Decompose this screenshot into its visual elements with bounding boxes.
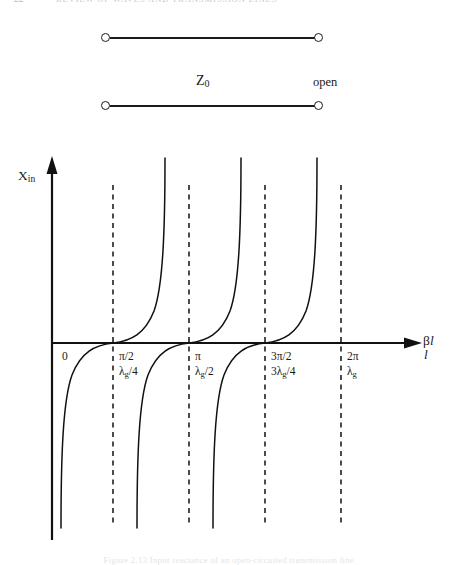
x-tick-lambda-divisor: /4 (287, 365, 296, 377)
x-tick-lambda-subscript: g (353, 369, 357, 379)
x-tick-2pi: 2π λg (347, 349, 359, 380)
x-tick-lambda-divisor: /2 (205, 365, 214, 377)
curve-branch-2 (113, 158, 165, 343)
x-axis-label-ell-top: l (430, 333, 434, 348)
x-tick-wavelength-label: λg (347, 364, 359, 380)
x-axis-label-ell-bottom: l (423, 348, 434, 362)
curve-branch-6 (265, 158, 317, 343)
x-tick-3pi-over-2: 3π/2 3λg/4 (271, 349, 296, 380)
x-tick-pi-over-2: π/2 λg/4 (119, 349, 138, 380)
x-tick-angle-label: π/2 (119, 350, 134, 362)
x-tick-wavelength-label: λg/4 (119, 364, 138, 380)
x-tick-origin: 0 (62, 349, 68, 364)
x-tick-origin-label: 0 (62, 350, 68, 362)
x-tick-pi: π λg/2 (195, 349, 214, 380)
x-tick-angle-label: 3π/2 (271, 350, 292, 362)
figure-caption: Figure 2.13 Input reactance of an open-c… (0, 555, 460, 565)
x-tick-wavelength-label: 3λg/4 (271, 364, 296, 380)
x-axis (52, 338, 422, 349)
curve-branch-1 (61, 343, 113, 528)
curve-branch-3 (137, 343, 189, 528)
x-tick-angle-label: π (195, 350, 201, 362)
y-axis-label: Xin (18, 168, 35, 184)
x-tick-lambda-divisor: /4 (129, 365, 138, 377)
x-tick-lambda: 3λ (271, 365, 282, 377)
x-axis-label: βl l (423, 334, 434, 362)
y-axis-label-main: X (18, 168, 28, 183)
x-tick-angle-label: 2π (347, 350, 359, 362)
curve-branch-5 (213, 343, 265, 528)
y-axis (47, 156, 58, 540)
curve-branch-4 (189, 158, 241, 343)
x-tick-wavelength-label: λg/2 (195, 364, 214, 380)
y-axis-label-subscript: in (28, 174, 35, 184)
asymptote-lines (113, 185, 341, 527)
reactance-plot: Xin βl l 0 π/2 λg/4 π λg/2 3π/2 3λg/4 2π… (0, 0, 460, 565)
x-axis-label-beta: β (423, 333, 430, 348)
